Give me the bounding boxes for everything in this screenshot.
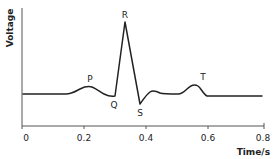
x-tick-label-0.6: 0.6: [201, 133, 216, 143]
wave-label-q: Q: [110, 100, 117, 110]
wave-label-t: T: [199, 72, 206, 82]
y-axis-title: Voltage: [5, 9, 15, 48]
ecg-trace: [23, 22, 262, 104]
wave-label-r: R: [122, 10, 128, 20]
wave-label-p: P: [87, 74, 93, 84]
x-tick-label-0.2: 0.2: [77, 133, 91, 143]
x-tick-label-0.8: 0.8: [256, 133, 271, 143]
ecg-chart: 0 0.2 0.4 0.6 0.8 Time/s Voltage P Q R S…: [0, 0, 276, 159]
x-tick-label-0.4: 0.4: [139, 133, 154, 143]
x-tick-label-0: 0: [23, 133, 29, 143]
x-axis-title: Time/s: [237, 147, 270, 157]
wave-label-s: S: [137, 108, 143, 118]
